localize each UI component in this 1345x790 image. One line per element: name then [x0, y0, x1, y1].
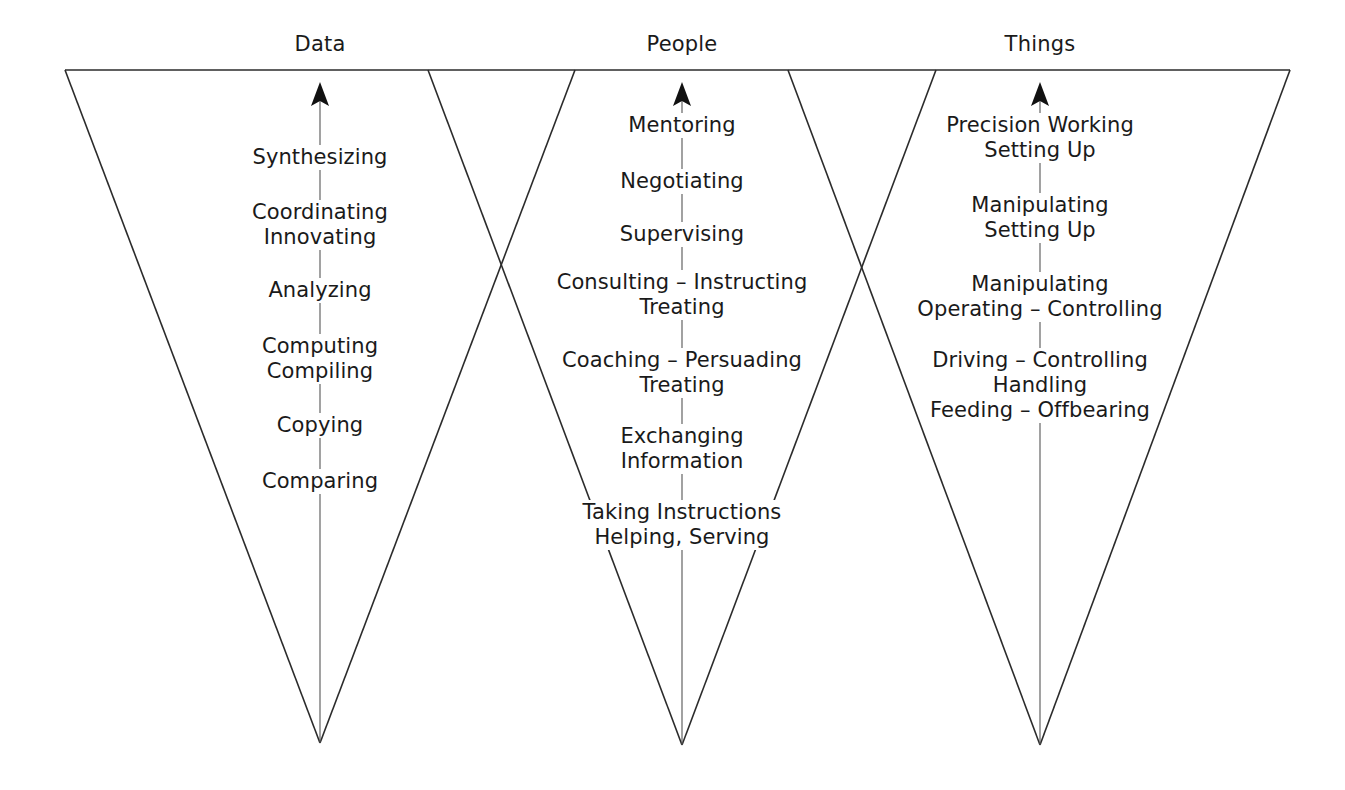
level-item: Mentoring: [621, 113, 742, 138]
column-header-people: People: [647, 32, 718, 56]
level-line: Helping, Serving: [587, 525, 776, 550]
level-line: Setting Up: [977, 138, 1103, 163]
level-line: Consulting – Instructing: [550, 270, 815, 295]
level-line: Mentoring: [621, 113, 742, 138]
level-line: Analyzing: [261, 278, 378, 303]
level-line: Computing: [255, 334, 385, 359]
level-line: Information: [614, 449, 751, 474]
level-item: Precision Working Setting Up: [939, 113, 1141, 163]
level-item: Supervising: [613, 222, 751, 247]
level-line: Negotiating: [613, 169, 751, 194]
level-line: Driving – Controlling: [925, 348, 1155, 373]
level-line: Synthesizing: [245, 145, 394, 170]
level-item: Coaching – Persuading Treating: [555, 348, 809, 398]
level-item: Consulting – Instructing Treating: [550, 270, 815, 320]
level-line: Setting Up: [977, 218, 1103, 243]
level-item: Synthesizing: [245, 145, 394, 170]
level-line: Treating: [632, 373, 731, 398]
level-item: Copying: [270, 413, 370, 438]
level-line: Compiling: [260, 359, 380, 384]
level-item: Analyzing: [261, 278, 378, 303]
level-line: Manipulating: [964, 272, 1115, 297]
triangle-data-right-edge: [320, 70, 575, 743]
level-item: Driving – Controlling Handling Feeding –…: [923, 348, 1157, 423]
level-line: Supervising: [613, 222, 751, 247]
level-line: Operating – Controlling: [910, 297, 1169, 322]
level-line: Manipulating: [964, 193, 1115, 218]
level-line: Taking Instructions: [576, 500, 789, 525]
level-item: Exchanging Information: [613, 424, 750, 474]
level-item: Comparing: [255, 469, 385, 494]
column-header-things: Things: [1005, 32, 1076, 56]
level-line: Copying: [270, 413, 370, 438]
level-line: Coaching – Persuading: [555, 348, 809, 373]
level-item: Computing Compiling: [255, 334, 385, 384]
level-line: Feeding – Offbearing: [923, 398, 1157, 423]
level-line: Innovating: [257, 225, 384, 250]
level-item: Negotiating: [613, 169, 751, 194]
level-item: Coordinating Innovating: [245, 200, 395, 250]
column-header-data: Data: [295, 32, 346, 56]
triangle-data-left-edge: [65, 70, 320, 743]
level-line: Handling: [986, 373, 1094, 398]
level-line: Treating: [632, 295, 731, 320]
level-line: Coordinating: [245, 200, 395, 225]
level-line: Precision Working: [939, 113, 1141, 138]
level-item: Taking Instructions Helping, Serving: [576, 500, 789, 550]
level-item: Manipulating Operating – Controlling: [910, 272, 1169, 322]
level-line: Exchanging: [613, 424, 750, 449]
worker-functions-diagram: Data People Things Synthesizing Coordina…: [0, 0, 1345, 790]
level-line: Comparing: [255, 469, 385, 494]
level-item: Manipulating Setting Up: [964, 193, 1115, 243]
